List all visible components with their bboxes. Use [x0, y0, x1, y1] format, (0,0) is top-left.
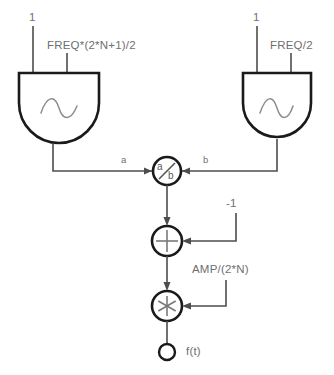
- osc-right-output-arrow: [182, 168, 190, 175]
- constant-minus-one-wire: [189, 213, 236, 241]
- diagram-canvas: 1 FREQ*(2*N+1)/2 1 FREQ/2 a b a b -1 AMP…: [0, 0, 334, 375]
- constant-minus-one-label: -1: [226, 198, 237, 210]
- divide-denominator-label: b: [168, 171, 174, 181]
- constant-amp-arrow: [182, 303, 191, 310]
- diagram-svg: [0, 0, 334, 375]
- osc-left-freq-label: FREQ*(2*N+1)/2: [47, 40, 136, 52]
- constant-amp-label: AMP/(2*N): [192, 264, 249, 276]
- constant-minus-one-arrow: [182, 238, 191, 245]
- osc-right-output-wire: [182, 139, 277, 171]
- osc-left-output-wire: [53, 143, 152, 171]
- constant-amp-wire: [189, 280, 226, 306]
- osc-left-input-1-label: 1: [29, 12, 36, 24]
- divide-port-b-label: b: [203, 155, 208, 165]
- output-label: f(t): [186, 346, 201, 358]
- sum-to-multiply-arrow: [164, 282, 171, 291]
- osc-right-body[interactable]: [243, 73, 311, 137]
- output-terminal[interactable]: [159, 344, 175, 360]
- divide-to-sum-arrow: [164, 217, 171, 226]
- divide-numerator-label: a: [157, 162, 163, 172]
- osc-right-input-1-label: 1: [253, 12, 260, 24]
- divide-port-a-label: a: [121, 155, 126, 165]
- osc-right-freq-label: FREQ/2: [270, 40, 313, 52]
- osc-left-output-arrow: [144, 168, 152, 175]
